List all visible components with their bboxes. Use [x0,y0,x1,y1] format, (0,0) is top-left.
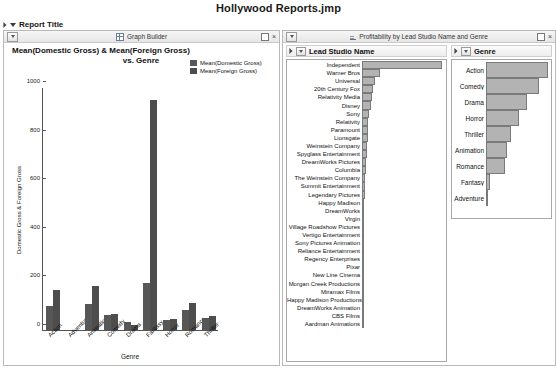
bar-row-bar[interactable] [486,158,505,174]
bar-row-bar[interactable] [362,231,364,239]
bar-row[interactable]: DreamWorks Pictures [287,158,446,166]
bar-row[interactable]: Virgin [287,215,446,223]
bar-row-bar[interactable] [362,191,365,199]
bar-row-bar[interactable] [362,101,371,109]
bar-row-bar[interactable] [486,62,548,78]
bar-row[interactable]: Animation [452,142,551,158]
section-menu-icon[interactable] [296,47,306,56]
bar-row-bar[interactable] [486,78,539,94]
bar-row[interactable]: Adventure [452,190,551,206]
bar-row-bar[interactable] [362,166,366,174]
triangle-right-icon[interactable] [3,22,6,28]
bar-row[interactable]: Vertigo Entertainment [287,231,446,239]
bar-row[interactable]: DreamWorks [287,207,446,215]
bar-row[interactable]: Spyglass Entertainment [287,150,446,158]
bar-row[interactable]: Paramount [287,126,446,134]
bar-row[interactable]: Universal [287,77,446,85]
bar-row[interactable]: Happy Madison Productions [287,296,446,304]
bar-row[interactable]: Drama [452,94,551,110]
bar-row-bar[interactable] [362,296,364,304]
bar-row[interactable]: Relativity [287,118,446,126]
bar-row[interactable]: Sony [287,110,446,118]
bar-row-bar[interactable] [362,110,369,118]
bar-row-bar[interactable] [362,288,364,296]
bar-row-bar[interactable] [362,215,364,223]
bar-row[interactable]: Disney [287,101,446,109]
bar-row[interactable]: CBS Films [287,312,446,320]
panel-menu-icon[interactable] [7,32,18,42]
bar-row[interactable]: Lionsgate [287,134,446,142]
bar-row[interactable]: The Weinstein Company [287,174,446,182]
bar-row[interactable]: Independent [287,61,446,69]
bar-row[interactable]: Happy Madison [287,199,446,207]
bar-row-bar[interactable] [486,174,490,190]
bar-row[interactable]: Warner Bros [287,69,446,77]
bar-row[interactable]: 20th Century Fox [287,85,446,93]
bar-row[interactable]: Relativity Media [287,93,446,101]
bar-row[interactable]: DreamWorks Animation [287,304,446,312]
restore-icon[interactable] [261,33,269,41]
panel-menu-icon[interactable] [286,32,297,42]
bar-row[interactable]: Thriller [452,126,551,142]
bar-row-bar[interactable] [362,271,364,279]
bar-row[interactable]: New Line Cinema [287,271,446,279]
bar-row-bar[interactable] [486,190,488,206]
bar-row[interactable]: Legendary Pictures [287,191,446,199]
bar[interactable] [85,304,92,330]
bar-row-bar[interactable] [362,77,375,85]
triangle-right-icon[interactable] [454,48,457,54]
triangle-right-icon[interactable] [289,48,292,54]
bar-row-bar[interactable] [486,142,507,158]
bar-row[interactable]: Fantasy [452,174,551,190]
bar-row-bar[interactable] [362,142,367,150]
bar-row-bar[interactable] [362,126,368,134]
bar-row[interactable]: Miramax Films [287,288,446,296]
bar-row-bar[interactable] [362,207,364,215]
bar-row[interactable]: Romance [452,158,551,174]
bar-row-bar[interactable] [362,61,442,69]
section-menu-icon[interactable] [461,47,471,56]
bar-row-bar[interactable] [362,239,364,247]
bar-row[interactable]: Comedy [452,78,551,94]
bar-row[interactable]: Pixar [287,263,446,271]
bar-row[interactable]: Village Roadshow Pictures [287,223,446,231]
bar-row-bar[interactable] [362,93,372,101]
bar-row[interactable]: Regency Enterprises [287,255,446,263]
bar[interactable] [150,100,157,330]
bar-row[interactable]: Columbia [287,166,446,174]
close-icon[interactable]: × [548,34,552,40]
bar-row-bar[interactable] [362,69,380,77]
bar-row-bar[interactable] [362,247,364,255]
bar-row-bar[interactable] [362,150,367,158]
bar-row-bar[interactable] [362,320,364,328]
bar[interactable] [46,306,53,330]
bar-row[interactable]: Horror [452,110,551,126]
bar-row-bar[interactable] [486,126,511,142]
triangle-down-icon[interactable] [10,23,16,27]
bar-row[interactable]: Reliance Entertainment [287,247,446,255]
bar-row-bar[interactable] [362,182,365,190]
bar-row[interactable]: Morgan Creek Productions [287,280,446,288]
bar-row-bar[interactable] [362,118,368,126]
bar-row-bar[interactable] [362,304,364,312]
bar-row[interactable]: Action [452,62,551,78]
bar-row-bar[interactable] [362,223,364,231]
restore-icon[interactable] [537,33,545,41]
bar-row-bar[interactable] [362,158,366,166]
bar-row-bar[interactable] [362,85,373,93]
bar-row[interactable]: Weinstein Company [287,142,446,150]
genre-section-header[interactable]: Genre [451,45,552,57]
bar-row-bar[interactable] [362,312,364,320]
bar-row-bar[interactable] [362,199,364,207]
bar-row-bar[interactable] [362,263,364,271]
bar-row-bar[interactable] [362,255,364,263]
bar[interactable] [182,310,189,330]
bar-row[interactable]: Summit Entertainment [287,182,446,190]
close-icon[interactable]: × [272,34,276,40]
bar-row-bar[interactable] [486,94,527,110]
bar-row-bar[interactable] [486,110,519,126]
bar-row-bar[interactable] [362,134,368,142]
bar-row[interactable]: Sony Pictures Animation [287,239,446,247]
bar-row-bar[interactable] [362,280,364,288]
bar-row-bar[interactable] [362,174,365,182]
